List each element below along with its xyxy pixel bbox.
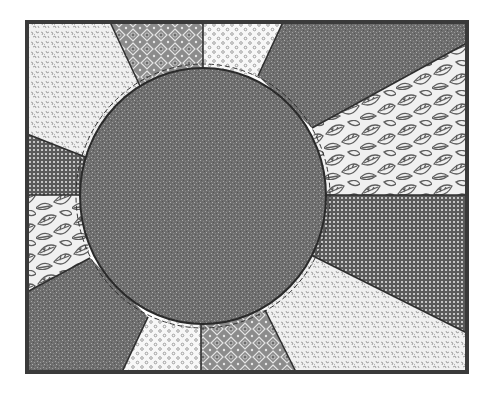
center-circle bbox=[80, 68, 326, 324]
quilt-svg bbox=[0, 0, 494, 394]
quilt-block-diagram bbox=[0, 0, 494, 394]
